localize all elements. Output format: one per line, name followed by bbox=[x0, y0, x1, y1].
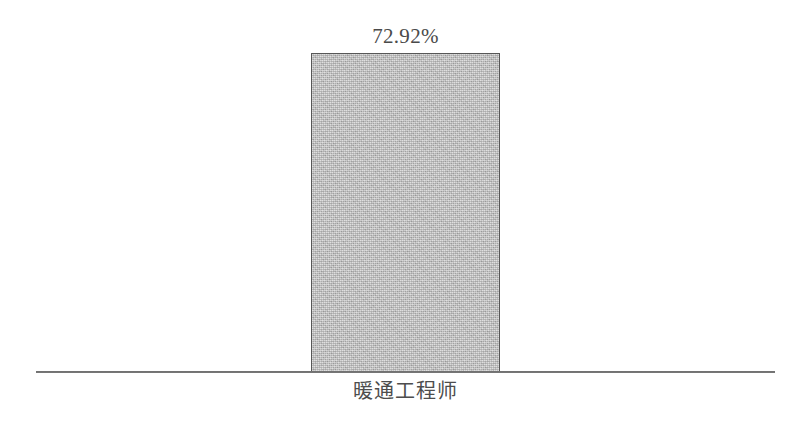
bar-value-label: 72.92% bbox=[311, 24, 500, 49]
category-label-hvac-engineer: 暖通工程师 bbox=[311, 378, 500, 404]
bar-chart: 72.92% 暖通工程师 bbox=[0, 0, 807, 426]
category-axis-line bbox=[36, 371, 775, 373]
bar-hvac-engineer bbox=[311, 53, 500, 372]
